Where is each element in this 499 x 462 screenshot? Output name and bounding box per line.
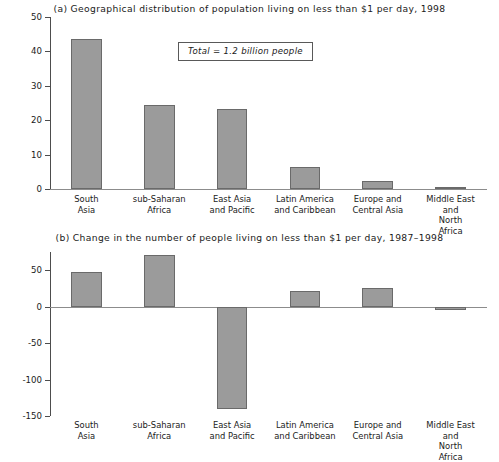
category-label: Latin America and Caribbean xyxy=(274,420,335,441)
category-label: South Asia xyxy=(74,194,98,215)
y-tick xyxy=(45,270,50,271)
category-label: Latin America and Caribbean xyxy=(274,194,335,215)
y-tick xyxy=(45,120,50,121)
panel-b: (b) Change in the number of people livin… xyxy=(0,228,499,456)
panel-a: (a) Geographical distribution of populat… xyxy=(0,0,499,228)
category-label: Europe and Central Asia xyxy=(352,420,403,441)
bar xyxy=(435,307,466,311)
y-tick xyxy=(45,189,50,190)
bar xyxy=(217,307,248,409)
bar xyxy=(144,255,175,307)
y-tick-label: 30 xyxy=(31,81,42,91)
y-tick-label: -50 xyxy=(28,338,42,348)
y-tick xyxy=(45,307,50,308)
y-tick-label: 0 xyxy=(37,184,42,194)
panel-a-x-axis xyxy=(50,189,487,190)
y-tick xyxy=(45,86,50,87)
panel-a-y-axis xyxy=(50,17,51,189)
panel-b-zero-line xyxy=(50,307,487,308)
y-tick xyxy=(45,416,50,417)
bar xyxy=(362,288,393,307)
y-tick-label: 20 xyxy=(31,115,42,125)
category-label: East Asia and Pacific xyxy=(210,194,255,215)
y-tick-label: 50 xyxy=(31,265,42,275)
y-tick-label: -100 xyxy=(22,375,42,385)
bar xyxy=(290,291,321,306)
bar xyxy=(290,167,321,189)
y-tick xyxy=(45,343,50,344)
bar xyxy=(71,272,102,307)
category-label: East Asia and Pacific xyxy=(210,420,255,441)
y-tick-label: 50 xyxy=(31,12,42,22)
panel-b-plot-area: 500-50-100-150 xyxy=(50,252,487,416)
category-label: sub-Saharan Africa xyxy=(133,194,186,215)
category-label: Europe and Central Asia xyxy=(352,194,403,215)
bar xyxy=(217,109,248,189)
total-annotation-box: Total = 1.2 billion people xyxy=(178,42,313,61)
panel-b-y-axis xyxy=(50,252,51,416)
y-tick-label: 10 xyxy=(31,150,42,160)
bar xyxy=(362,181,393,189)
bar xyxy=(71,39,102,189)
y-tick xyxy=(45,155,50,156)
y-tick xyxy=(45,17,50,18)
category-label: Middle East and North Africa xyxy=(426,420,474,462)
y-tick xyxy=(45,380,50,381)
category-label: sub-Saharan Africa xyxy=(133,420,186,441)
bar xyxy=(435,187,466,189)
y-tick-label: 40 xyxy=(31,46,42,56)
y-tick-label: 0 xyxy=(37,302,42,312)
y-tick xyxy=(45,51,50,52)
y-tick-label: -150 xyxy=(22,411,42,421)
panel-b-title: (b) Change in the number of people livin… xyxy=(0,232,499,243)
bar xyxy=(144,105,175,189)
category-label: South Asia xyxy=(74,420,98,441)
panel-a-title: (a) Geographical distribution of populat… xyxy=(0,3,499,14)
